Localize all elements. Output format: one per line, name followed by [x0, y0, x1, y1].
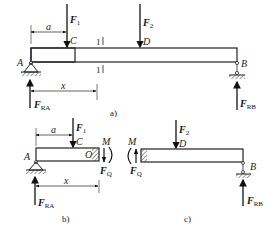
moment-b-label: M	[101, 136, 111, 147]
label-b-c-point: C	[76, 136, 83, 147]
force-c-f2-label: F2	[178, 124, 190, 137]
cut-section-b	[92, 148, 99, 161]
pin-support-a	[21, 61, 41, 76]
force-b-f1-label: F1	[75, 122, 87, 135]
label-a-point: A	[16, 57, 24, 68]
dimension-x-label: x	[60, 80, 66, 91]
section-mark-top: 1	[96, 37, 101, 47]
dimension-b-x-label: x	[63, 175, 69, 186]
label-b-point: B	[241, 58, 247, 69]
label-c-d-point: D	[178, 138, 187, 149]
beam-c	[141, 149, 243, 162]
force-fra-label: FRA	[33, 99, 50, 112]
cut-section-c	[141, 149, 147, 162]
figure-b: O A F1 C a M FQ x FRA b)	[23, 118, 112, 224]
label-o-point: O	[85, 149, 92, 160]
label-c-b-point: B	[250, 161, 256, 172]
beam-a	[31, 48, 75, 62]
force-c-frb-label: FRB	[246, 195, 263, 208]
label-d-point: D	[142, 36, 151, 47]
dimension-b-a-label: a	[51, 124, 56, 135]
figure-c: M FQ F2 D B FRB c)	[127, 120, 263, 224]
moment-c-label: M	[127, 136, 137, 147]
moment-b-arrow	[109, 147, 112, 163]
label-c-point: C	[70, 35, 77, 46]
shear-b-label: FQ	[99, 165, 112, 178]
shear-c-label: FQ	[129, 165, 142, 178]
caption-a: a)	[110, 108, 117, 118]
beam-a-body	[31, 48, 237, 62]
dimension-a-label: a	[46, 21, 51, 32]
force-b-fra-label: FRA	[37, 197, 54, 210]
force-frb-label: FRB	[239, 98, 256, 111]
section-mark-bottom: 1	[96, 65, 101, 75]
label-b-fig-a-point: A	[23, 151, 31, 162]
force-f1-label: F1	[69, 14, 81, 27]
caption-c: c)	[184, 214, 191, 224]
force-f2-label: F2	[142, 17, 154, 30]
pin-support-b	[26, 161, 46, 175]
caption-b: b)	[62, 214, 70, 224]
roller-support-c	[236, 162, 251, 179]
figure-a: A B F1 C F2 D 1 1 a x FRA	[16, 4, 256, 118]
beam-diagram: A B F1 C F2 D 1 1 a x FRA	[0, 0, 273, 239]
moment-c-arrow	[128, 148, 131, 164]
